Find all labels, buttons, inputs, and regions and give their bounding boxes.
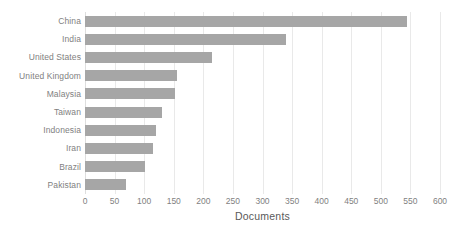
category-label-slot: United Kingdom [0,67,81,85]
bar-row [85,85,440,103]
category-label-iran: Iran [1,139,81,157]
bar-row [85,12,440,30]
category-label-pakistan: Pakistan [1,176,81,194]
bar-indonesia [85,125,156,136]
bar-taiwan [85,107,162,118]
category-label-slot: Pakistan [0,176,81,194]
category-label-india: India [1,30,81,48]
category-label-brazil: Brazil [1,158,81,176]
bar-united-kingdom [85,70,177,81]
bar-row [85,139,440,157]
x-tick-label-550: 550 [403,196,417,206]
bar-iran [85,143,153,154]
category-label-slot: Iran [0,139,81,157]
x-tick-label-200: 200 [196,196,210,206]
category-label-slot: Indonesia [0,121,81,139]
category-label-united-kingdom: United Kingdom [1,67,81,85]
x-tick-label-0: 0 [83,196,88,206]
bar-united-states [85,52,212,63]
category-label-indonesia: Indonesia [1,121,81,139]
category-label-taiwan: Taiwan [1,103,81,121]
category-label-slot: Malaysia [0,85,81,103]
x-tick-label-250: 250 [226,196,240,206]
x-tick-label-100: 100 [137,196,151,206]
x-tick-label-600: 600 [433,196,447,206]
category-label-united-states: United States [1,48,81,66]
x-tick-label-400: 400 [315,196,329,206]
category-label-china: China [1,12,81,30]
gridline-600 [440,12,441,194]
bar-malaysia [85,88,175,99]
category-label-slot: Taiwan [0,103,81,121]
x-tick-label-150: 150 [167,196,181,206]
plot-area [85,12,440,194]
bar-row [85,121,440,139]
x-tick-label-350: 350 [285,196,299,206]
bar-india [85,34,286,45]
bar-row [85,48,440,66]
category-label-slot: India [0,30,81,48]
category-axis: ChinaIndiaUnited StatesUnited KingdomMal… [0,12,81,194]
x-tick-label-50: 50 [110,196,119,206]
category-label-slot: Brazil [0,158,81,176]
bar-pakistan [85,179,126,190]
x-tick-label-300: 300 [255,196,269,206]
category-label-slot: China [0,12,81,30]
bar-row [85,30,440,48]
bar-row [85,158,440,176]
bar-chart: ChinaIndiaUnited StatesUnited KingdomMal… [0,0,466,235]
category-label-slot: United States [0,48,81,66]
bar-row [85,103,440,121]
x-axis-ticks: 050100150200250300350400450500550600 [85,196,440,210]
bar-brazil [85,161,145,172]
bar-china [85,16,407,27]
x-axis-title: Documents [85,210,440,222]
x-tick-label-450: 450 [344,196,358,206]
x-tick-label-500: 500 [374,196,388,206]
bar-row [85,176,440,194]
category-label-malaysia: Malaysia [1,85,81,103]
bar-row [85,67,440,85]
